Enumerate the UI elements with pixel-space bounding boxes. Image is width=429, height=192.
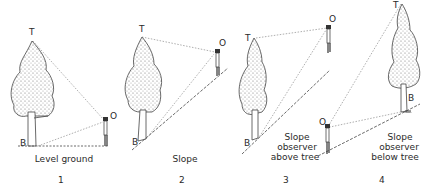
panel-4-point-top: T xyxy=(393,0,399,10)
sightline-base xyxy=(258,30,326,139)
panel-3-caption-line-1: Slope xyxy=(272,132,322,142)
panel-3-number: 3 xyxy=(283,175,289,185)
panel-1-number: 1 xyxy=(58,175,64,185)
panel-3-caption-line-3: above tree xyxy=(262,152,328,162)
tree-icon xyxy=(239,38,267,140)
tree-height-diagram: T B O Level ground 1 T B O Slope 2 T B O… xyxy=(0,0,429,192)
sightline-top xyxy=(329,4,401,125)
panel-1-point-base: B xyxy=(20,138,26,148)
panel-2-number: 2 xyxy=(179,175,185,185)
tree-icon xyxy=(388,4,419,112)
panel-1-level-ground xyxy=(11,41,108,146)
panel-1-caption: Level ground xyxy=(28,154,100,164)
observer-icon xyxy=(215,49,220,76)
panel-3-caption-line-2: observer xyxy=(268,142,326,152)
panel-4-point-base: B xyxy=(408,93,414,103)
panel-1-point-observer: O xyxy=(110,111,117,121)
panel-2-point-top: T xyxy=(139,24,145,34)
panel-3-point-base: B xyxy=(244,138,250,148)
panel-4-caption-line-3: below tree xyxy=(362,152,428,162)
panel-1-point-top: T xyxy=(29,27,35,37)
panel-2-caption: Slope xyxy=(165,154,205,164)
tree-icon xyxy=(125,37,161,141)
panel-2-point-base: B xyxy=(132,137,138,147)
panel-3-point-observer: O xyxy=(329,14,336,24)
panel-4-caption-line-1: Slope xyxy=(375,132,425,142)
panel-4-caption-line-2: observer xyxy=(370,142,428,152)
sightline-top xyxy=(256,28,327,38)
panel-2-point-observer: O xyxy=(219,38,226,48)
observer-icon xyxy=(326,25,331,53)
sightline-base xyxy=(38,122,103,146)
sightline-top xyxy=(142,37,215,52)
panel-3-point-top: T xyxy=(245,33,251,43)
panel-4-point-observer: O xyxy=(319,117,326,127)
tree-icon xyxy=(11,41,54,146)
panel-4-number: 4 xyxy=(379,175,385,185)
panel-2-slope xyxy=(125,37,228,150)
observer-icon xyxy=(103,117,108,146)
